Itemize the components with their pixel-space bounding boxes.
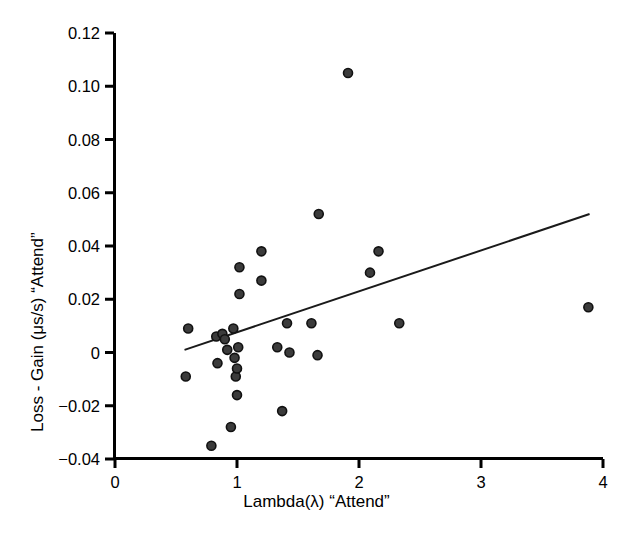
data-point [278, 407, 287, 416]
data-point [235, 263, 244, 272]
x-tick-label: 1 [232, 473, 241, 491]
data-point [273, 343, 282, 352]
data-point [283, 319, 292, 328]
data-point [223, 345, 232, 354]
y-tick-label: 0.12 [68, 24, 100, 42]
data-point [235, 289, 244, 298]
data-point [220, 335, 229, 344]
y-tick-label: −0.02 [58, 397, 100, 415]
y-tick-label: 0.02 [68, 290, 100, 308]
x-axis-label: Lambda(λ) “Attend” [0, 492, 633, 512]
data-point [307, 319, 316, 328]
data-point [233, 391, 242, 400]
y-tick-label: 0.06 [68, 184, 100, 202]
trend-line [185, 214, 590, 350]
y-tick-label: −0.04 [58, 450, 100, 468]
data-point [226, 423, 235, 432]
data-point [285, 348, 294, 357]
y-axis-tick-labels: −0.04−0.0200.020.040.060.080.100.12 [58, 24, 100, 468]
x-tick-label: 0 [110, 473, 119, 491]
data-point [395, 319, 404, 328]
x-tick-label: 4 [598, 473, 607, 491]
plot-area: −0.04−0.0200.020.040.060.080.100.12 0123… [0, 0, 633, 537]
data-point [584, 303, 593, 312]
data-point [181, 372, 190, 381]
data-point [233, 364, 242, 373]
y-axis-ticks [105, 33, 114, 459]
data-point [257, 247, 266, 256]
data-point [234, 343, 243, 352]
x-axis-tick-labels: 01234 [110, 473, 607, 491]
data-point [213, 359, 222, 368]
y-tick-label: 0.08 [68, 131, 100, 149]
data-point [374, 247, 383, 256]
data-point [365, 268, 374, 277]
y-tick-label: 0.04 [68, 237, 100, 255]
scatter-chart-figure: Loss - Gain (μs/s) “Attend” −0.04−0.0200… [0, 0, 633, 537]
data-point [313, 351, 322, 360]
data-point [229, 324, 238, 333]
data-point [344, 68, 353, 77]
x-tick-label: 3 [476, 473, 485, 491]
data-point [207, 441, 216, 450]
data-points [181, 68, 593, 450]
y-tick-label: 0.10 [68, 77, 100, 95]
x-axis-ticks [115, 459, 603, 468]
data-point [184, 324, 193, 333]
x-tick-label: 2 [354, 473, 363, 491]
data-point [314, 210, 323, 219]
data-point [230, 353, 239, 362]
data-point [257, 276, 266, 285]
y-tick-label: 0 [91, 344, 100, 362]
trend-line-segment [185, 214, 590, 350]
